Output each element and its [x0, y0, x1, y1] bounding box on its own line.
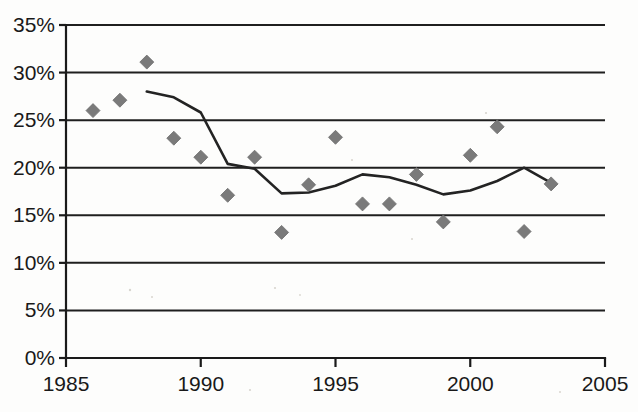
- x-tick-label-1990: 1990: [177, 372, 224, 395]
- data-point-1986: [86, 104, 100, 118]
- data-point-1999: [436, 215, 450, 229]
- data-point-1990: [194, 150, 208, 164]
- x-axis-ticks: [66, 358, 605, 367]
- y-axis-labels: 0%5%10%15%20%25%30%35%: [13, 13, 55, 369]
- data-point-markers: [86, 55, 558, 239]
- y-tick-label-15: 15%: [13, 203, 55, 226]
- x-tick-label-1995: 1995: [312, 372, 359, 395]
- y-tick-label-20: 20%: [13, 156, 55, 179]
- y-tick-label-35: 35%: [13, 13, 55, 36]
- y-tick-label-5: 5%: [25, 298, 55, 321]
- data-point-1994: [302, 178, 316, 192]
- chart-container: 0%5%10%15%20%25%30%35% 19851990199520002…: [0, 0, 638, 412]
- data-point-1987: [113, 93, 127, 107]
- trend-line-series: [147, 92, 551, 195]
- data-point-1989: [167, 131, 181, 145]
- x-axis-labels: 19851990199520002005: [43, 372, 629, 395]
- data-point-1996: [356, 197, 370, 211]
- y-tick-label-30: 30%: [13, 61, 55, 84]
- data-point-1997: [382, 197, 396, 211]
- y-tick-label-10: 10%: [13, 251, 55, 274]
- data-point-1988: [140, 55, 154, 69]
- background-texture: [82, 112, 561, 393]
- data-point-1993: [275, 225, 289, 239]
- y-tick-label-0: 0%: [25, 346, 55, 369]
- data-point-1992: [248, 150, 262, 164]
- y-tick-label-25: 25%: [13, 108, 55, 131]
- data-point-1995: [329, 130, 343, 144]
- data-point-2000: [463, 148, 477, 162]
- x-tick-label-2005: 2005: [582, 372, 629, 395]
- x-tick-label-1985: 1985: [43, 372, 90, 395]
- chart-canvas: 0%5%10%15%20%25%30%35% 19851990199520002…: [0, 0, 638, 412]
- x-tick-label-2000: 2000: [447, 372, 494, 395]
- data-point-1998: [409, 167, 423, 181]
- data-point-2001: [490, 120, 504, 134]
- data-point-1991: [221, 188, 235, 202]
- data-point-2002: [517, 225, 531, 239]
